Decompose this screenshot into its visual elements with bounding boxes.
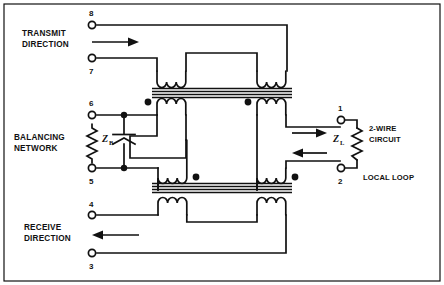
transmit-direction-label-line1: TRANSMIT (22, 29, 66, 38)
diagram-canvas: 8 7 6 5 4 3 1 2 TRANSMIT DIRECTIO (0, 0, 444, 285)
lower-left-secondary-coil (158, 198, 187, 216)
two-wire-in-arrow (292, 149, 327, 158)
wire-upper-winding-link (186, 53, 257, 71)
polarity-dot-upper-left (145, 99, 152, 106)
wire-terminal1-to-zl (345, 120, 357, 128)
wire-to-terminal2 (286, 161, 340, 168)
wire-terminal7-to-upper-left-coil (97, 58, 157, 71)
terminal-6[interactable] (88, 111, 95, 118)
wire-terminal8-to-upper-right-coil (97, 25, 287, 71)
balancing-capacitor (113, 115, 135, 168)
wire-lower-secondary-link (187, 215, 257, 222)
balancing-impedance-subscript: B (109, 139, 114, 146)
terminal-2[interactable] (337, 164, 344, 171)
lower-right-secondary-coil (257, 198, 286, 216)
lower-transformer-core (152, 184, 292, 193)
junction-dot-cap-top (121, 112, 127, 118)
hybrid-transformer-schematic: 8 7 6 5 4 3 1 2 TRANSMIT DIRECTIO (0, 0, 444, 285)
terminal-7[interactable] (88, 54, 95, 61)
transmit-direction-label-line2: DIRECTION (22, 40, 69, 49)
receive-direction-label-line1: RECEIVE (24, 223, 62, 232)
lower-left-primary-coil (158, 140, 187, 190)
upper-right-primary-coil (257, 71, 286, 88)
balancing-impedance-symbol: Z (101, 133, 108, 144)
balancing-network-label-line1: BALANCING (14, 133, 65, 142)
terminal-label-5: 5 (89, 177, 94, 186)
two-wire-out-arrow (292, 129, 327, 138)
terminal-5[interactable] (88, 164, 95, 171)
wire-terminal2-to-zl (345, 160, 357, 168)
junction-dot-cap-bottom (121, 165, 127, 171)
terminal-3[interactable] (88, 249, 95, 256)
wire-to-terminal1 (286, 115, 340, 127)
terminal-label-2: 2 (338, 177, 343, 186)
two-wire-circuit-label-line2: CIRCUIT (369, 135, 401, 144)
balancing-impedance-resistor (87, 124, 97, 163)
load-impedance-subscript: L (340, 139, 345, 146)
polarity-dot-lower-right (292, 174, 299, 181)
terminal-4[interactable] (88, 211, 95, 218)
terminal-8[interactable] (88, 21, 95, 28)
terminal-label-1: 1 (338, 104, 343, 113)
wire-center-left-crossover (130, 115, 186, 158)
transmit-direction-arrow (92, 38, 139, 47)
terminal-label-8: 8 (89, 9, 94, 18)
terminal-1[interactable] (337, 116, 344, 123)
upper-transformer-core (152, 89, 292, 98)
balancing-network-label-line2: NETWORK (14, 144, 58, 153)
load-impedance-resistor (352, 128, 362, 160)
upper-right-secondary-coil (257, 98, 286, 115)
polarity-dot-upper-right (245, 99, 252, 106)
upper-left-secondary-coil (157, 98, 186, 115)
upper-left-primary-coil (157, 71, 186, 88)
terminal-label-3: 3 (89, 262, 94, 271)
polarity-dot-lower-left (193, 174, 200, 181)
terminal-label-4: 4 (89, 200, 94, 209)
local-loop-label: LOCAL LOOP (363, 173, 414, 182)
terminal-label-6: 6 (89, 99, 94, 108)
terminal-label-7: 7 (89, 67, 94, 76)
load-impedance-symbol: Z (332, 133, 339, 144)
receive-direction-label-line2: DIRECTION (24, 234, 71, 243)
two-wire-circuit-label-line1: 2-WIRE (369, 124, 396, 133)
receive-direction-arrow (92, 231, 139, 240)
